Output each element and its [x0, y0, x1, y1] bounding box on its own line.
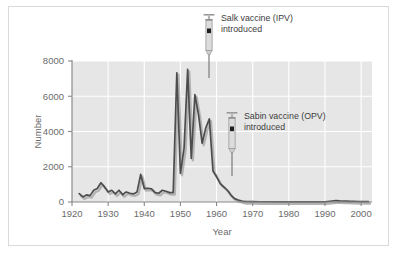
syringe-icon	[204, 14, 215, 54]
y-tick-label-0: 0	[59, 196, 64, 207]
x-tick-label-1990: 1990	[314, 208, 335, 219]
y-tick-label-6000: 6000	[43, 91, 64, 102]
x-tick-label-2000: 2000	[351, 208, 372, 219]
x-axis-tick-labels: 1920 1930 1940 1950 1960 1970 1980 1990 …	[61, 208, 371, 219]
y-tick-label-2000: 2000	[43, 161, 64, 172]
salk-label-line2: introduced	[221, 24, 262, 34]
polio-cases-chart: 0 2000 4000 6000 8000 1920 1930 1940 195…	[0, 0, 399, 254]
x-tick-label-1920: 1920	[61, 208, 82, 219]
x-tick-label-1930: 1930	[98, 208, 119, 219]
y-tick-label-8000: 8000	[43, 55, 64, 66]
sabin-label-line1: Sabin vaccine (OPV)	[244, 111, 326, 121]
x-axis-title: Year	[212, 226, 231, 237]
y-axis-title: Number	[32, 115, 43, 149]
x-tick-label-1960: 1960	[206, 208, 227, 219]
sabin-label-line2: introduced	[244, 122, 285, 132]
salk-label-line1: Salk vaccine (IPV)	[221, 13, 293, 23]
y-tick-label-4000: 4000	[43, 126, 64, 137]
x-tick-label-1970: 1970	[242, 208, 263, 219]
x-tick-label-1980: 1980	[278, 208, 299, 219]
y-axis-tick-labels: 0 2000 4000 6000 8000	[43, 55, 64, 207]
x-tick-label-1940: 1940	[134, 208, 155, 219]
x-tick-label-1950: 1950	[170, 208, 191, 219]
chart-svg: 0 2000 4000 6000 8000 1920 1930 1940 195…	[0, 0, 399, 254]
